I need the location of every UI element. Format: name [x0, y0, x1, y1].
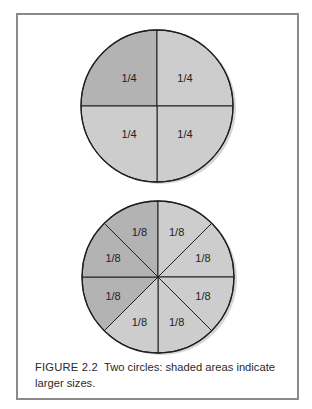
slice-label: 1/8: [169, 316, 184, 328]
slice-label: 1/4: [177, 128, 192, 140]
slice-label: 1/4: [121, 128, 136, 140]
pie-slice: [157, 106, 233, 182]
pie-slice: [81, 106, 157, 182]
slice-label: 1/8: [132, 316, 147, 328]
eighths-circle: 1/81/81/81/81/81/81/81/8: [82, 201, 237, 355]
figure-diagram: 1/41/41/41/4 1/81/81/81/81/81/81/81/8: [0, 0, 312, 409]
pie-slice: [157, 30, 233, 106]
slice-label: 1/8: [195, 290, 210, 302]
slice-label: 1/4: [121, 72, 136, 84]
slice-label: 1/4: [177, 72, 192, 84]
figure-label: FIGURE 2.2: [35, 361, 98, 373]
slice-label: 1/8: [105, 252, 120, 264]
slice-label: 1/8: [195, 252, 210, 264]
pie-slice: [81, 30, 157, 106]
figure-caption: FIGURE 2.2 Two circles: shaded areas ind…: [35, 360, 285, 391]
slice-label: 1/8: [105, 290, 120, 302]
slice-label: 1/8: [132, 226, 147, 238]
quarters-circle: 1/41/41/41/4: [81, 30, 236, 184]
slice-label: 1/8: [169, 226, 184, 238]
